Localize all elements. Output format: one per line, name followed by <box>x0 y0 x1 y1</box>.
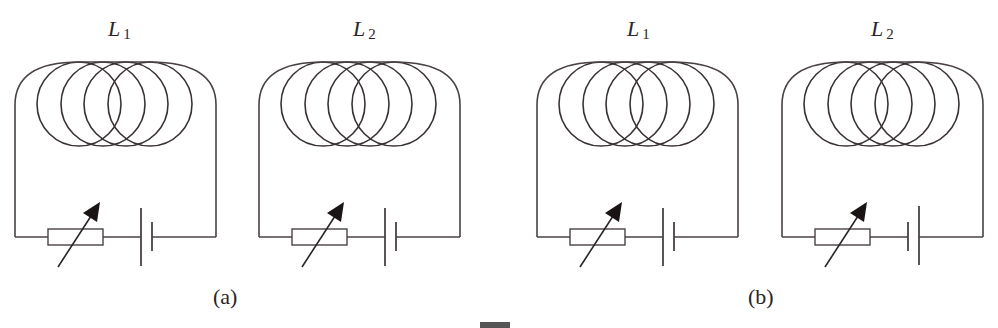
battery-icon <box>908 206 919 265</box>
circuits-svg <box>0 0 998 328</box>
circuit-b-l1 <box>537 62 738 267</box>
circuit-b-l2 <box>782 62 983 267</box>
battery-icon <box>141 208 152 266</box>
rheostat-icon <box>292 202 347 267</box>
rheostat-icon <box>570 202 625 267</box>
circuit-a-l2 <box>259 62 460 267</box>
battery-icon <box>663 208 674 266</box>
rheostat-icon <box>48 202 103 267</box>
rheostat-icon <box>815 202 870 267</box>
circuit-figure: L1 L2 L1 L2 (a) (b) <box>0 0 998 328</box>
battery-icon <box>385 208 396 266</box>
circuit-a-l1 <box>15 62 216 267</box>
